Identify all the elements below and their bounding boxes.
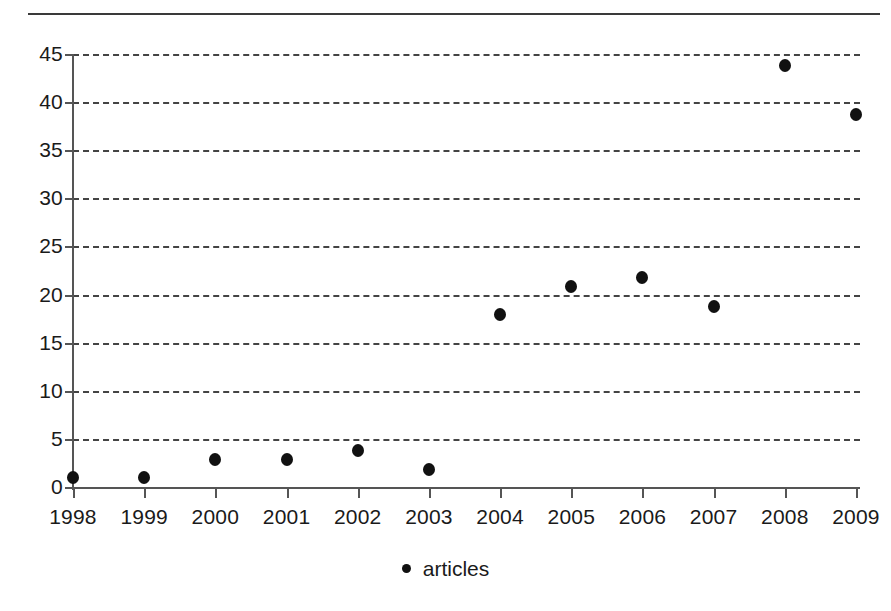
y-axis-label-40: 40 — [19, 91, 63, 112]
legend-entry: articles — [402, 556, 490, 581]
y-axis-label-0: 0 — [19, 476, 63, 497]
gridline — [73, 439, 860, 441]
x-axis-label-2007: 2007 — [678, 506, 750, 528]
gridline — [73, 295, 860, 297]
y-axis-label-10: 10 — [19, 380, 63, 401]
data-point — [138, 471, 150, 484]
x-axis-label-2002: 2002 — [322, 506, 394, 528]
x-axis-label-2008: 2008 — [749, 506, 821, 528]
y-axis-label-30: 30 — [19, 187, 63, 208]
data-point — [636, 271, 648, 284]
x-axis-label-2006: 2006 — [606, 506, 678, 528]
gridline — [73, 391, 860, 393]
x-axis-label-2000: 2000 — [179, 506, 251, 528]
x-axis-label-2005: 2005 — [535, 506, 607, 528]
gridline — [73, 150, 860, 152]
scatter-plot-area: 051015202530354045 199819992000200120022… — [0, 0, 891, 611]
gridline — [73, 246, 860, 248]
chart-legend: articles — [0, 556, 891, 581]
y-axis-line — [72, 54, 74, 490]
gridline — [73, 198, 860, 200]
x-axis-line — [72, 487, 860, 489]
data-point — [494, 308, 506, 321]
data-point — [423, 463, 435, 476]
y-axis-label-35: 35 — [19, 139, 63, 160]
x-axis-label-1999: 1999 — [108, 506, 180, 528]
legend-marker-dot-icon — [402, 564, 411, 573]
data-point — [209, 453, 221, 466]
y-axis-label-15: 15 — [19, 332, 63, 353]
x-axis-label-2004: 2004 — [464, 506, 536, 528]
x-axis-label-2001: 2001 — [251, 506, 323, 528]
data-point — [779, 59, 791, 72]
x-axis-label-2003: 2003 — [393, 506, 465, 528]
data-point — [67, 471, 79, 484]
gridline — [73, 54, 860, 56]
data-point — [281, 453, 293, 466]
y-axis-label-45: 45 — [19, 43, 63, 64]
gridline — [73, 343, 860, 345]
x-axis-label-2009: 2009 — [820, 506, 891, 528]
y-axis-label-5: 5 — [19, 428, 63, 449]
y-axis-label-20: 20 — [19, 284, 63, 305]
legend-label: articles — [423, 557, 490, 581]
data-point — [352, 444, 364, 457]
chart-figure: 051015202530354045 199819992000200120022… — [0, 0, 891, 611]
y-axis-label-25: 25 — [19, 235, 63, 256]
data-point — [708, 300, 720, 313]
x-axis-label-1998: 1998 — [37, 506, 109, 528]
data-point — [565, 280, 577, 293]
gridline — [73, 102, 860, 104]
data-point — [850, 108, 862, 121]
